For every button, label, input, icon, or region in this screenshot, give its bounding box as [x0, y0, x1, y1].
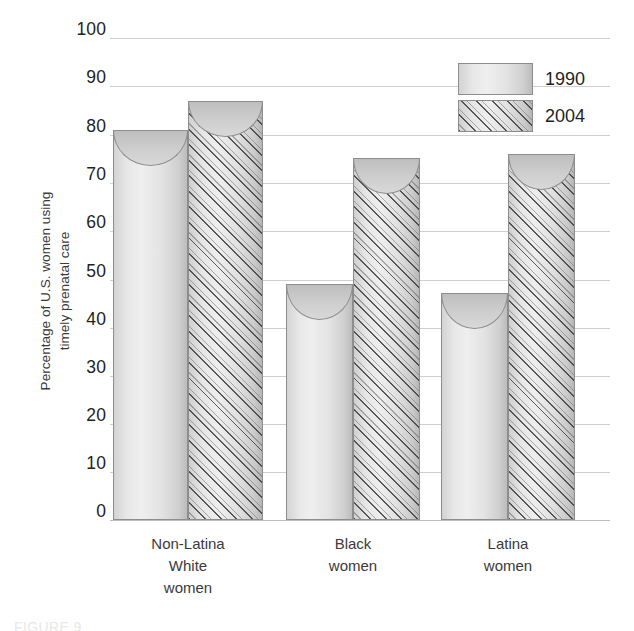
bar-non-latina-white-women-2004 [188, 101, 263, 520]
bar-latina-women-1990 [441, 293, 508, 520]
bar-fill [354, 159, 419, 519]
category-label-black-women: Black women [273, 533, 433, 577]
category-label-text: Non-Latina White women [151, 535, 224, 596]
plot-area: 100 90 80 70 60 50 40 30 20 10 0 Percent… [0, 0, 634, 631]
bar-non-latina-white-women-1990 [113, 130, 188, 520]
legend-swatch-1990 [458, 63, 533, 95]
legend-swatch-2004 [458, 100, 533, 132]
y-axis-title: Percentage of U.S. women using timely pr… [36, 96, 74, 486]
bar-fill [287, 285, 352, 519]
category-label-latina-women: Latina women [428, 533, 588, 577]
chart-figure: 100 90 80 70 60 50 40 30 20 10 0 Percent… [0, 0, 634, 631]
bar-latina-women-2004 [508, 154, 575, 520]
legend-label-2004: 2004 [545, 107, 585, 125]
bar-fill [114, 131, 187, 519]
gridline-0 [110, 520, 610, 521]
ytick-label-100: 100 [36, 21, 106, 38]
legend-entry-2004: 2004 [458, 100, 585, 132]
bar-black-women-1990 [286, 284, 353, 520]
bar-fill [509, 155, 574, 519]
legend-label-1990: 1990 [545, 70, 585, 88]
category-label-text: Latina women [484, 535, 532, 574]
legend-entry-1990: 1990 [458, 63, 585, 95]
category-label-non-latina-white-women: Non-Latina White women [108, 533, 268, 599]
gridline-100 [110, 38, 610, 39]
category-label-text: Black women [329, 535, 377, 574]
ytick-label-0: 0 [36, 503, 106, 520]
ytick-label-90: 90 [36, 69, 106, 86]
figure-caption-clipped: FIGURE 9 [14, 619, 82, 631]
bar-black-women-2004 [353, 158, 420, 520]
bar-fill [189, 102, 262, 519]
y-axis-title-text: Percentage of U.S. women using timely pr… [38, 192, 72, 391]
